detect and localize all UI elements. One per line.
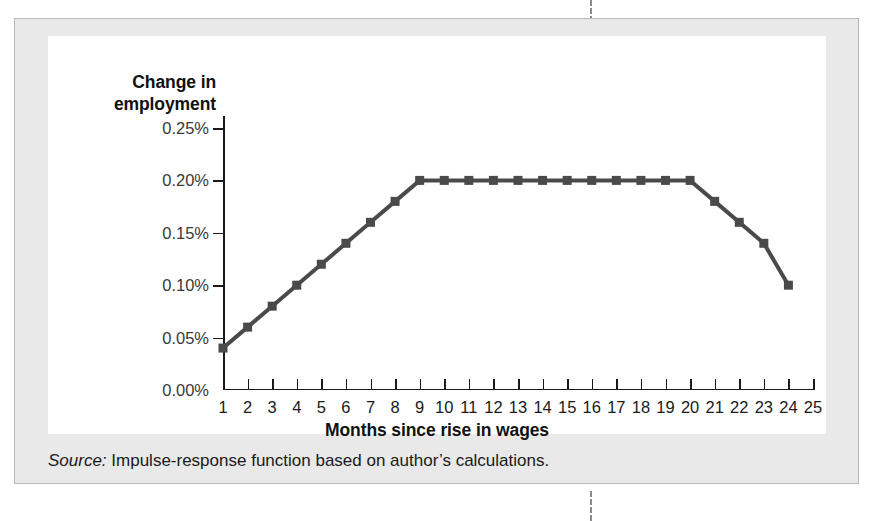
x-tick-label: 18 <box>632 398 650 417</box>
x-tick-label: 4 <box>292 398 301 417</box>
x-tick-label: 9 <box>415 398 424 417</box>
y-tick-label: 0.00% <box>162 381 209 400</box>
x-tick-label: 7 <box>366 398 375 417</box>
x-tick-label: 11 <box>460 398 477 417</box>
y-tick-mark <box>213 128 223 130</box>
data-point-marker <box>317 260 326 269</box>
y-axis-title: Change in employment <box>68 72 216 115</box>
x-axis-title: Months since rise in wages <box>48 420 826 441</box>
x-tick-label: 6 <box>341 398 350 417</box>
data-point-marker <box>735 218 744 227</box>
data-point-marker <box>612 176 621 185</box>
x-tick-label: 16 <box>583 398 601 417</box>
series-line <box>223 180 788 348</box>
figure-panel: Change in employment 0.00%0.05%0.10%0.15… <box>14 18 859 484</box>
data-point-marker <box>538 176 547 185</box>
data-point-marker <box>563 176 572 185</box>
data-point-marker <box>489 176 498 185</box>
y-tick-label: 0.05% <box>162 328 209 347</box>
y-tick-label: 0.15% <box>162 223 209 242</box>
y-tick-mark <box>213 338 223 340</box>
data-point-marker <box>415 176 424 185</box>
data-point-marker <box>587 176 596 185</box>
source-note: Source: Impulse-response function based … <box>48 451 549 471</box>
data-point-marker <box>784 281 793 290</box>
y-tick-mark <box>213 285 223 287</box>
data-point-marker <box>661 176 670 185</box>
data-point-marker <box>243 323 252 332</box>
x-tick-label: 19 <box>656 398 674 417</box>
data-point-marker <box>636 176 645 185</box>
source-label: Source: <box>48 451 107 470</box>
data-point-marker <box>440 176 449 185</box>
y-tick-mark <box>213 180 223 182</box>
y-axis-title-line1: Change in <box>68 72 216 94</box>
data-point-marker <box>464 176 473 185</box>
crop-mark-bottom <box>590 491 592 521</box>
x-tick-label: 23 <box>755 398 773 417</box>
y-tick-label: 0.25% <box>162 119 209 138</box>
plot-area: 0.00%0.05%0.10%0.15%0.20%0.25% 123456789… <box>223 128 813 390</box>
data-point-marker <box>366 218 375 227</box>
data-point-marker <box>292 281 301 290</box>
data-point-marker <box>759 239 768 248</box>
x-tick-label: 14 <box>533 398 551 417</box>
data-point-marker <box>710 197 719 206</box>
x-tick-label: 20 <box>681 398 699 417</box>
data-point-marker <box>391 197 400 206</box>
x-tick-label: 17 <box>607 398 625 417</box>
data-point-marker <box>686 176 695 185</box>
y-tick-label: 0.10% <box>162 276 209 295</box>
x-tick-label: 8 <box>390 398 399 417</box>
x-tick-label: 12 <box>484 398 502 417</box>
plot-card: Change in employment 0.00%0.05%0.10%0.15… <box>48 36 826 434</box>
data-point-marker <box>268 302 277 311</box>
y-tick-label: 0.20% <box>162 171 209 190</box>
x-tick-label: 22 <box>730 398 748 417</box>
x-tick-label: 2 <box>243 398 252 417</box>
x-tick-label: 24 <box>779 398 797 417</box>
x-tick-label: 25 <box>804 398 822 417</box>
y-axis-title-line2: employment <box>68 94 216 116</box>
x-tick-label: 10 <box>435 398 453 417</box>
x-tick-label: 21 <box>705 398 723 417</box>
data-point-marker <box>219 344 228 353</box>
data-point-marker <box>341 239 350 248</box>
x-tick-label: 5 <box>317 398 326 417</box>
x-tick-label: 3 <box>268 398 277 417</box>
data-point-marker <box>514 176 523 185</box>
x-tick-label: 13 <box>509 398 527 417</box>
x-tick-label: 1 <box>218 398 227 417</box>
x-tick-mark <box>813 379 815 390</box>
employment-response-series <box>223 128 813 390</box>
y-tick-mark <box>213 233 223 235</box>
x-tick-label: 15 <box>558 398 576 417</box>
source-text: Impulse-response function based on autho… <box>107 451 550 470</box>
